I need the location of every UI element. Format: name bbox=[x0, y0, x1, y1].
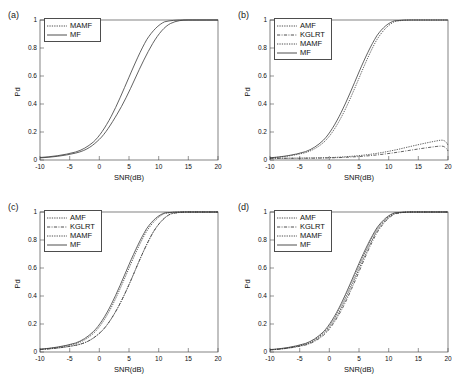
xtick-label: 5 bbox=[357, 355, 361, 362]
xtick-label: -10 bbox=[265, 355, 275, 362]
xtick-label: 20 bbox=[214, 163, 222, 170]
ytick-label: 1 bbox=[263, 208, 267, 215]
panel-c-legend[interactable]: AMF KGLRT MAMF MF bbox=[44, 210, 102, 252]
legend-label: MF bbox=[70, 240, 81, 249]
line-style-dotted-icon bbox=[277, 214, 297, 222]
panel-c-xticks bbox=[40, 348, 218, 352]
panel-b: (b) -10 -5 0 5 10 15 bbox=[230, 0, 460, 192]
xtick-label: 0 bbox=[97, 355, 101, 362]
ytick-label: 0.2 bbox=[258, 320, 267, 327]
xtick-label: 10 bbox=[385, 355, 393, 362]
ytick-label: 0.8 bbox=[28, 44, 37, 51]
legend-label: MAMF bbox=[70, 231, 92, 240]
panel-b-xticklabels: -10 -5 0 5 10 15 20 bbox=[265, 163, 452, 170]
legend-label: MAMF bbox=[300, 39, 322, 48]
xtick-label: -10 bbox=[35, 163, 45, 170]
ytick-label: 0 bbox=[263, 156, 267, 163]
line-style-dotted-icon bbox=[47, 214, 67, 222]
ytick-label: 1 bbox=[33, 208, 37, 215]
xtick-label: 0 bbox=[327, 163, 331, 170]
panel-a-ylabel: Pd bbox=[13, 87, 22, 96]
legend-item[interactable]: AMF bbox=[277, 213, 328, 222]
xtick-label: 5 bbox=[357, 163, 361, 170]
panel-d-xticks bbox=[270, 348, 448, 352]
panel-d-axes: -10 -5 0 5 10 15 20 0 0.2 0.4 0.6 0.8 1 bbox=[230, 192, 460, 384]
line-style-dotted-icon bbox=[277, 232, 297, 240]
legend-item[interactable]: MAMF bbox=[277, 39, 328, 48]
legend-item[interactable]: AMF bbox=[277, 21, 328, 30]
xtick-label: 15 bbox=[415, 163, 423, 170]
panel-d-ylabel: Pd bbox=[243, 279, 252, 288]
ytick-label: 0.2 bbox=[258, 128, 267, 135]
legend-item[interactable]: AMF bbox=[47, 213, 98, 222]
panel-b-xlabel: SNR(dB) bbox=[344, 173, 375, 182]
legend-item[interactable]: MF bbox=[47, 240, 98, 249]
panel-d-xlabel: SNR(dB) bbox=[344, 365, 375, 374]
line-style-dotted-icon bbox=[47, 232, 67, 240]
line-style-dotted-icon bbox=[47, 22, 67, 30]
xtick-label: 20 bbox=[444, 163, 452, 170]
line-style-dashdot-icon bbox=[47, 223, 67, 231]
panel-b-legend[interactable]: AMF KGLRT MAMF MF bbox=[274, 18, 332, 60]
legend-item[interactable]: MF bbox=[47, 30, 97, 39]
xtick-label: 0 bbox=[327, 355, 331, 362]
xtick-label: 20 bbox=[444, 355, 452, 362]
xtick-label: 0 bbox=[97, 163, 101, 170]
xtick-label: -5 bbox=[297, 355, 303, 362]
legend-item[interactable]: MAMF bbox=[47, 21, 97, 30]
ytick-label: 0.4 bbox=[28, 100, 37, 107]
panel-a: (a) -10 -5 0 5 10 15 bbox=[0, 0, 230, 192]
line-style-dashdot-icon bbox=[277, 31, 297, 39]
panel-d-legend[interactable]: AMF KGLRT MAMF MF bbox=[274, 210, 332, 252]
line-style-dotted-icon bbox=[277, 22, 297, 30]
ytick-label: 0 bbox=[263, 348, 267, 355]
ytick-label: 0.8 bbox=[28, 236, 37, 243]
line-style-solid-icon bbox=[47, 31, 67, 39]
legend-item[interactable]: MAMF bbox=[47, 231, 98, 240]
legend-label: KGLRT bbox=[70, 222, 95, 231]
line-style-dashdot-icon bbox=[277, 223, 297, 231]
legend-label: MF bbox=[70, 30, 81, 39]
xtick-label: 20 bbox=[214, 355, 222, 362]
xtick-label: -10 bbox=[265, 163, 275, 170]
legend-label: MAMF bbox=[300, 231, 322, 240]
ytick-label: 1 bbox=[263, 16, 267, 23]
panel-c-yticklabels: 0 0.2 0.4 0.6 0.8 1 bbox=[28, 208, 37, 355]
xtick-label: 5 bbox=[127, 163, 131, 170]
xtick-label: 10 bbox=[385, 163, 393, 170]
line-style-dotted-icon bbox=[277, 40, 297, 48]
panel-a-xticklabels: -10 -5 0 5 10 15 20 bbox=[35, 163, 222, 170]
legend-item[interactable]: MF bbox=[277, 48, 328, 57]
panel-c: (c) -10 -5 0 5 10 15 bbox=[0, 192, 230, 384]
panel-c-ylabel: Pd bbox=[13, 279, 22, 288]
legend-item[interactable]: KGLRT bbox=[47, 222, 98, 231]
ytick-label: 0.6 bbox=[258, 264, 267, 271]
ytick-label: 0.2 bbox=[28, 128, 37, 135]
xtick-label: -5 bbox=[297, 163, 303, 170]
legend-item[interactable]: KGLRT bbox=[277, 222, 328, 231]
ytick-label: 1 bbox=[33, 16, 37, 23]
ytick-label: 0.8 bbox=[258, 44, 267, 51]
xtick-label: 15 bbox=[185, 163, 193, 170]
legend-item[interactable]: MAMF bbox=[277, 231, 328, 240]
ytick-label: 0.8 bbox=[258, 236, 267, 243]
panel-c-axes: -10 -5 0 5 10 15 20 0 0.2 0.4 0.6 0.8 1 bbox=[0, 192, 230, 384]
legend-label: AMF bbox=[70, 213, 86, 222]
panel-a-xlabel: SNR(dB) bbox=[114, 173, 145, 182]
panel-b-ylabel: Pd bbox=[243, 87, 252, 96]
ytick-label: 0.4 bbox=[258, 100, 267, 107]
panel-a-legend[interactable]: MAMF MF bbox=[44, 18, 101, 42]
legend-item[interactable]: MF bbox=[277, 240, 328, 249]
legend-label: MF bbox=[300, 240, 311, 249]
ytick-label: 0 bbox=[33, 156, 37, 163]
panel-a-xticks bbox=[40, 156, 218, 160]
panel-a-axes: -10 -5 0 5 10 15 20 0 0.2 0.4 0.6 0.8 1 … bbox=[0, 0, 230, 192]
legend-label: AMF bbox=[300, 213, 316, 222]
xtick-label: 5 bbox=[127, 355, 131, 362]
panel-c-xticklabels: -10 -5 0 5 10 15 20 bbox=[35, 355, 222, 362]
ytick-label: 0.4 bbox=[258, 292, 267, 299]
legend-label: KGLRT bbox=[300, 30, 325, 39]
legend-item[interactable]: KGLRT bbox=[277, 30, 328, 39]
panel-d-xticklabels: -10 -5 0 5 10 15 20 bbox=[265, 355, 452, 362]
xtick-label: 15 bbox=[415, 355, 423, 362]
